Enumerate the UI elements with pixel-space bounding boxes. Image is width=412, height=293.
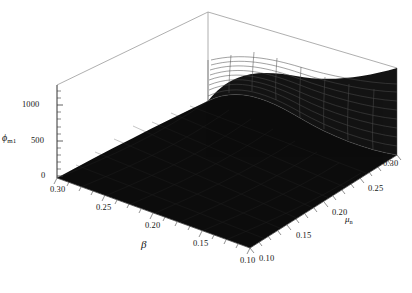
beta-axis-label: β [141,238,146,250]
vertical-tick-1000: 1000 [22,99,39,109]
beta-tick-0-10: 0.10 [240,255,255,265]
vertical-tick-0: 0 [41,170,45,180]
mu-tick-0-10: 0.10 [259,253,274,263]
beta-tick-0-20: 0.20 [145,220,160,230]
mu-axis-subscript: n [350,218,353,225]
mu-tick-0-15: 0.15 [296,230,311,240]
beta-tick-0-15: 0.15 [193,238,208,248]
vertical-axis [57,85,63,178]
mu-axis-label: μn [345,214,353,225]
mu-tick-0-30: 0.30 [383,158,398,168]
mu-tick-0-25: 0.25 [368,183,383,193]
vertical-tick-500: 500 [31,135,44,145]
beta-tick-0-30: 0.30 [50,184,65,194]
plot-canvas [0,0,412,293]
surface-plot-figure: 0 500 1000 ϕm1 0.30 0.25 0.20 0.15 0.10 … [0,0,412,293]
vertical-axis-subscript: m1 [7,137,16,145]
beta-tick-0-25: 0.25 [96,202,111,212]
vertical-axis-label: ϕm1 [2,132,16,145]
